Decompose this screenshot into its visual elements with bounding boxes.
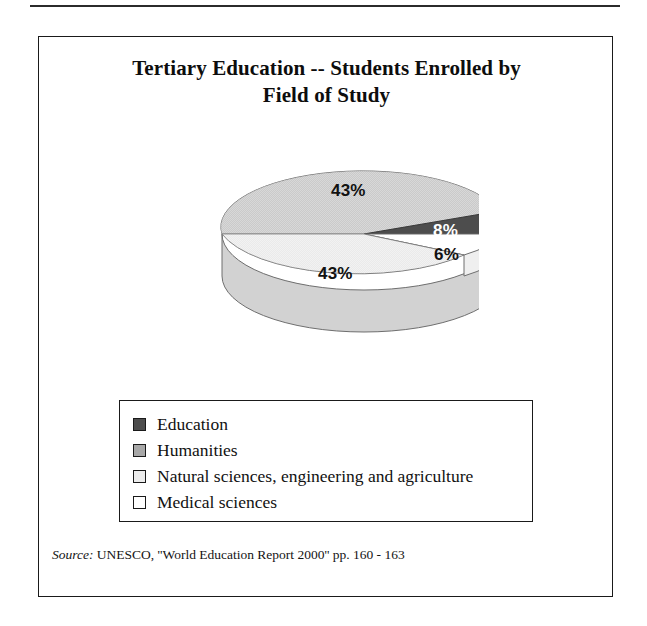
legend-item-natural-sciences: Natural sciences, engineering and agricu… xyxy=(133,463,526,489)
page-title-line-1: Tertiary Education -- Students Enrolled … xyxy=(89,55,564,82)
source-label: Source: xyxy=(52,547,93,562)
legend-list: Education Humanities Natural sciences, e… xyxy=(133,411,526,515)
pie-label-natural: 43% xyxy=(318,264,353,284)
pie-label-humanities: 43% xyxy=(331,181,366,201)
pie-label-education: 8% xyxy=(433,221,458,241)
page-title-line-2: Field of Study xyxy=(89,82,564,109)
legend-item-label: Humanities xyxy=(157,440,238,460)
legend-item-label: Medical sciences xyxy=(157,492,277,512)
page-top-rule xyxy=(30,5,620,7)
source-text: UNESCO, ''World Education Report 2000'' … xyxy=(97,547,405,562)
legend-item-label: Natural sciences, engineering and agricu… xyxy=(157,466,473,486)
legend-item-medical-sciences: Medical sciences xyxy=(133,489,526,515)
legend-swatch-icon xyxy=(133,470,146,483)
legend-item-education: Education xyxy=(133,411,526,437)
legend: Education Humanities Natural sciences, e… xyxy=(119,400,533,522)
legend-swatch-icon xyxy=(133,444,146,457)
legend-swatch-icon xyxy=(133,418,146,431)
legend-swatch-icon xyxy=(133,496,146,509)
legend-item-label: Education xyxy=(157,414,228,434)
legend-item-humanities: Humanities xyxy=(133,437,526,463)
pie-chart: 43% 8% 6% 43% xyxy=(179,142,479,357)
figure-frame: Tertiary Education -- Students Enrolled … xyxy=(38,36,613,597)
pie-label-medical: 6% xyxy=(434,245,459,265)
source-note: Source: UNESCO, ''World Education Report… xyxy=(52,546,405,564)
page-title: Tertiary Education -- Students Enrolled … xyxy=(89,55,564,109)
